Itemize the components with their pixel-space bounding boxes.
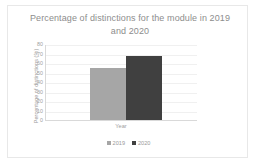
y-tick-label: 20 — [37, 99, 43, 104]
y-tick-label: 80 — [37, 42, 43, 47]
gridline — [45, 64, 197, 65]
y-tick-label: 30 — [37, 90, 43, 95]
legend-item-2019: 2019 — [107, 140, 125, 146]
gridline — [45, 45, 197, 46]
y-tick-label: 70 — [37, 52, 43, 57]
y-tick-label: 40 — [37, 80, 43, 85]
y-tick-label: 10 — [37, 109, 43, 114]
gridline — [45, 55, 197, 56]
chart-legend: 2019 2020 — [0, 140, 257, 146]
y-tick-label: 50 — [37, 71, 43, 76]
plot-area — [45, 45, 197, 121]
y-tick-label: 60 — [37, 61, 43, 66]
legend-swatch-2019 — [107, 141, 111, 145]
legend-label-2019: 2019 — [113, 140, 125, 146]
y-axis-line — [45, 45, 46, 121]
legend-label-2020: 2020 — [138, 140, 150, 146]
bar-2020 — [126, 56, 162, 120]
legend-item-2020: 2020 — [132, 140, 150, 146]
bar-2019 — [90, 68, 126, 120]
x-axis-label: Year — [45, 123, 197, 129]
chart-title-line-2: and 2020 — [22, 25, 238, 38]
x-axis-line — [45, 120, 197, 121]
chart-title: Percentage of distinctions for the modul… — [22, 12, 238, 37]
bar-chart-figure: Percentage of distinctions for the modul… — [0, 0, 257, 166]
legend-swatch-2020 — [132, 141, 136, 145]
chart-title-line-1: Percentage of distinctions for the modul… — [22, 12, 238, 25]
y-axis-tick-labels: 80 70 60 50 40 30 20 10 0 — [29, 45, 43, 121]
y-tick-label: 0 — [40, 118, 43, 123]
